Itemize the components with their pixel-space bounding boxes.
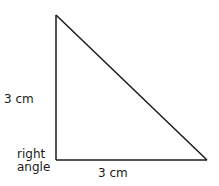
- hypotenuse: [56, 15, 207, 160]
- horizontal-side-length-label: 3 cm: [98, 166, 128, 180]
- right-angle-label: right angle: [17, 148, 50, 174]
- right-triangle-diagram: 3 cm right angle 3 cm: [0, 0, 219, 186]
- vertical-side-length-label: 3 cm: [4, 92, 34, 106]
- right-angle-label-line2: angle: [17, 161, 50, 174]
